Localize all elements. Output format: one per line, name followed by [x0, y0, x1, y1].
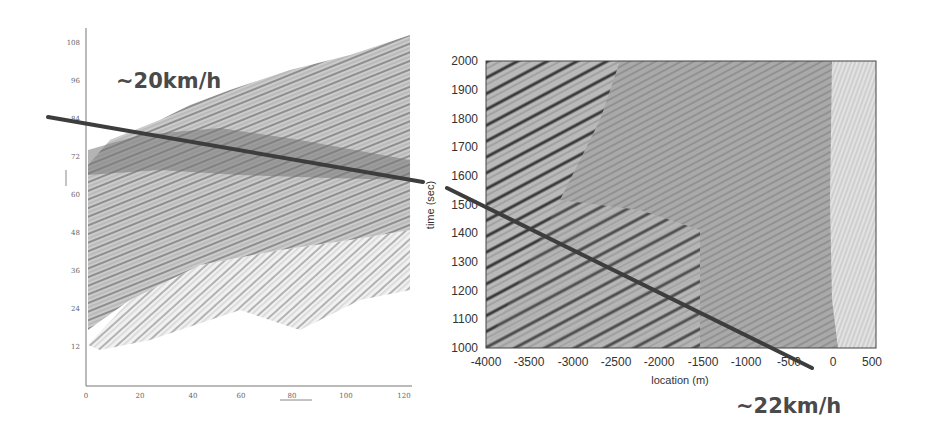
svg-text:1300: 1300 [451, 255, 478, 269]
left-chart: 12 24 36 48 60 72 84 96 108 0 20 40 60 8… [48, 28, 423, 400]
svg-text:-3500: -3500 [514, 355, 545, 369]
svg-text:1800: 1800 [451, 112, 478, 126]
svg-text:40: 40 [189, 392, 198, 400]
svg-text:1000: 1000 [451, 341, 478, 355]
right-x-ticks: -4000 -3500 -3000 -2500 -2000 -1500 -100… [471, 355, 883, 369]
svg-text:-3000: -3000 [558, 355, 589, 369]
svg-text:-1000: -1000 [731, 355, 762, 369]
svg-text:72: 72 [71, 153, 80, 161]
svg-text:-2500: -2500 [601, 355, 632, 369]
svg-text:1900: 1900 [451, 83, 478, 97]
svg-text:96: 96 [71, 77, 80, 85]
svg-text:120: 120 [397, 392, 410, 400]
svg-text:0: 0 [84, 392, 88, 400]
svg-text:60: 60 [237, 392, 246, 400]
svg-text:500: 500 [862, 355, 882, 369]
svg-text:100: 100 [339, 392, 352, 400]
svg-text:60: 60 [71, 191, 80, 199]
svg-text:12: 12 [71, 343, 80, 351]
svg-text:-4000: -4000 [471, 355, 502, 369]
left-y-ticks: 12 24 36 48 60 72 84 96 108 [67, 39, 81, 351]
svg-text:1200: 1200 [451, 284, 478, 298]
svg-text:48: 48 [71, 229, 80, 237]
right-y-axis-label: time (sec) [424, 181, 436, 229]
left-speed-annotation: ~20km/h [116, 69, 221, 93]
svg-text:108: 108 [67, 39, 80, 47]
svg-text:1100: 1100 [452, 312, 478, 326]
svg-text:1400: 1400 [451, 226, 478, 240]
right-x-axis-label: location (m) [651, 374, 708, 386]
right-downstream-region [830, 61, 876, 348]
svg-text:1700: 1700 [451, 140, 478, 154]
figure-canvas: 12 24 36 48 60 72 84 96 108 0 20 40 60 8… [0, 0, 934, 437]
right-speed-annotation: ~22km/h [736, 394, 841, 418]
svg-text:0: 0 [830, 355, 837, 369]
svg-text:2000: 2000 [451, 54, 478, 68]
svg-text:-2000: -2000 [644, 355, 675, 369]
svg-text:-1500: -1500 [688, 355, 719, 369]
right-chart: 1000 1100 1200 1300 1400 1500 1600 1700 … [424, 54, 882, 418]
left-x-ticks: 0 20 40 60 80 100 120 [84, 392, 411, 400]
right-y-ticks: 1000 1100 1200 1300 1400 1500 1600 1700 … [451, 54, 478, 355]
svg-text:20: 20 [136, 392, 145, 400]
svg-text:80: 80 [288, 392, 297, 400]
svg-text:24: 24 [71, 305, 80, 313]
svg-text:1600: 1600 [451, 169, 478, 183]
svg-text:36: 36 [71, 267, 80, 275]
